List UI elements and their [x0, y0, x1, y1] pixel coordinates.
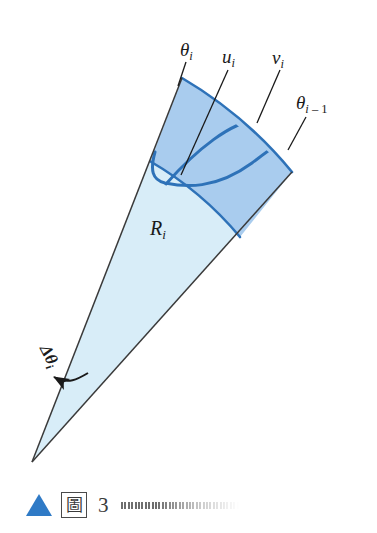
boxed-glyph-icon: 圖 [61, 492, 87, 518]
label-u-i: ui [222, 47, 235, 69]
caption-bar: 圖 3 [26, 486, 356, 524]
caption-fade-rule [121, 502, 239, 509]
label-theta-i-minus-1: θi – 1 [296, 93, 328, 115]
caption-number: 3 [96, 493, 109, 518]
label-theta-i: θi [180, 40, 193, 62]
leader-theta-i-minus-1 [288, 117, 306, 150]
leader-v-i [257, 70, 280, 123]
polar-wedge-diagram [0, 0, 377, 533]
triangle-up-icon [26, 494, 52, 516]
label-r-i: Ri [150, 218, 166, 241]
figure-root: θi ui vi θi – 1 Ri Δθi 圖 3 [0, 0, 377, 533]
boxed-glyph-text: 圖 [66, 497, 83, 514]
label-v-i: vi [272, 48, 284, 70]
